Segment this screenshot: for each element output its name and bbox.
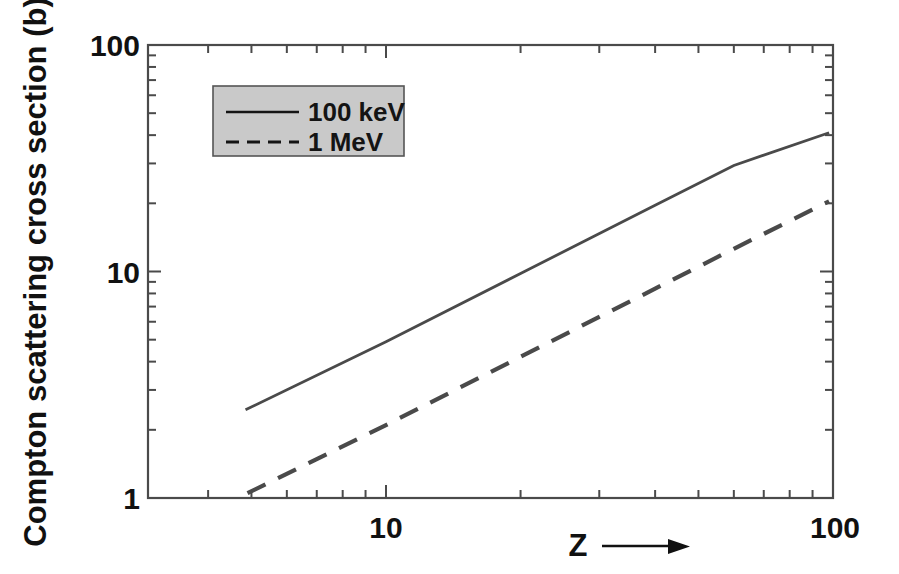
figure-container: 100 10 1 10 100 Compton scattering cross… (0, 0, 899, 574)
x-tick-label-10: 10 (369, 511, 402, 544)
right-arrow-icon (602, 539, 690, 554)
series-line-100-kev (246, 133, 830, 410)
y-axis-title: Compton scattering cross section (b) (18, 0, 53, 547)
legend: 100 keV 1 MeV (213, 86, 406, 157)
data-series-layer (246, 133, 830, 494)
series-line-1-mev (248, 201, 830, 493)
legend-label-100kev: 100 keV (308, 97, 406, 127)
y-tick-label-10: 10 (107, 256, 140, 289)
x-tick-label-100: 100 (810, 511, 860, 544)
y-tick-label-1: 1 (123, 482, 140, 515)
x-axis-title: Z (569, 528, 588, 563)
compton-cross-section-chart: 100 10 1 10 100 Compton scattering cross… (0, 0, 899, 574)
y-tick-label-100: 100 (90, 29, 140, 62)
legend-label-1mev: 1 MeV (308, 127, 384, 157)
